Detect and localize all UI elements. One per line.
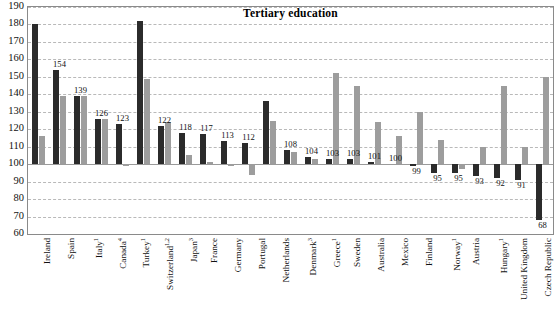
bar-value-label: 112	[237, 133, 260, 142]
bar-value-label: 154	[48, 60, 71, 69]
x-axis-labels: IrelandSpainItaly1Canada4Turkey1Switzerl…	[0, 238, 556, 326]
bar-value-label: 104	[300, 147, 323, 156]
bar-value-label: 123	[111, 114, 134, 123]
bar-value-label: 126	[90, 109, 113, 118]
bar-light	[291, 152, 297, 164]
bar-dark	[263, 101, 269, 164]
bar-value-label: 91	[510, 181, 533, 190]
x-axis-label: Portugal	[258, 238, 267, 269]
x-axis-label: Mexico	[401, 238, 410, 266]
x-axis-label: Switzerland1,2	[162, 238, 175, 290]
bar-light	[522, 147, 528, 164]
bar-light	[228, 164, 234, 166]
bars-layer	[28, 7, 553, 234]
bar-value-label: 92	[489, 179, 512, 188]
y-axis-tick: 180	[8, 18, 24, 28]
bar-value-label: 95	[426, 174, 449, 183]
x-axis-label: Greece1	[329, 238, 342, 267]
bar-value-label: 95	[447, 174, 470, 183]
bar-dark	[74, 96, 80, 164]
bar-dark	[494, 164, 500, 178]
bar-light	[207, 162, 213, 164]
bar-light	[438, 140, 444, 164]
x-axis-label: Netherlands	[282, 238, 291, 282]
x-axis-label: Japan3	[186, 238, 199, 262]
bar-value-label: 122	[153, 116, 176, 125]
bar-value-label: 68	[531, 221, 554, 230]
bar-dark	[179, 133, 185, 164]
y-axis-tick: 160	[8, 53, 24, 63]
x-axis-label: Denmark3	[305, 238, 318, 275]
bar-light	[60, 96, 66, 164]
y-axis-tick: 60	[14, 228, 25, 238]
bar-dark	[32, 24, 38, 164]
bar-dark	[473, 164, 479, 176]
bar-light	[501, 86, 507, 165]
x-axis-label: Hungary1	[496, 238, 509, 273]
bar-value-label: 108	[279, 140, 302, 149]
x-axis-label: Turkey1	[138, 238, 151, 267]
bar-dark	[431, 164, 437, 173]
y-axis-tick: 100	[8, 158, 24, 168]
y-axis-tick: 120	[8, 123, 24, 133]
bar-light	[459, 164, 465, 169]
chart-title: Tertiary education	[27, 7, 554, 19]
bar-dark	[116, 124, 122, 164]
bar-light	[312, 159, 318, 164]
bar-value-label: 103	[342, 149, 365, 158]
bar-dark	[221, 141, 227, 164]
bar-light	[165, 122, 171, 164]
bar-value-label: 103	[321, 149, 344, 158]
x-axis-label: United Kingdom	[520, 238, 529, 300]
bar-dark	[53, 70, 59, 164]
bar-dark	[368, 162, 374, 164]
bar-light	[186, 155, 192, 164]
bar-light	[81, 96, 87, 164]
bar-value-label: 99	[405, 167, 428, 176]
y-axis-tick: 90	[14, 176, 25, 186]
bar-light	[270, 121, 276, 165]
plot-area: 1541391261231221181171131121081041031031…	[27, 6, 554, 235]
y-axis-tick: 80	[14, 193, 25, 203]
bar-light	[123, 164, 129, 166]
bar-dark	[326, 159, 332, 164]
bar-dark	[200, 134, 206, 164]
bar-dark	[284, 150, 290, 164]
x-axis-label: Norway1	[449, 238, 462, 271]
x-axis-label: Ireland	[43, 238, 52, 264]
bar-light	[417, 112, 423, 164]
y-axis: 19018017016015014013012011010090807060	[0, 0, 27, 241]
bar-dark	[158, 126, 164, 164]
x-axis-label: Germany	[234, 238, 243, 272]
y-axis-tick: 170	[8, 36, 24, 46]
bar-dark	[137, 21, 143, 164]
bar-dark	[515, 164, 521, 180]
x-axis-label: Finland	[425, 238, 434, 266]
bar-value-label: 101	[363, 152, 386, 161]
bar-dark	[347, 159, 353, 164]
bar-light	[39, 136, 45, 164]
bar-light	[249, 164, 255, 174]
x-axis-label: Spain	[67, 238, 76, 259]
bar-value-label: 100	[384, 154, 407, 163]
bar-value-label: 139	[69, 86, 92, 95]
y-axis-tick: 130	[8, 106, 24, 116]
y-axis-tick: 140	[8, 88, 24, 98]
bar-light	[480, 147, 486, 164]
x-axis-label: Italy1	[91, 238, 104, 258]
bar-value-label: 113	[216, 131, 239, 140]
y-axis-tick: 110	[9, 141, 24, 151]
x-axis-label: Sweden	[353, 238, 362, 267]
bar-value-label: 93	[468, 177, 491, 186]
x-axis-label: Czech Republic	[544, 238, 553, 296]
bar-light	[144, 79, 150, 165]
chart-container: 19018017016015014013012011010090807060 1…	[0, 0, 556, 326]
bar-value-label: 118	[174, 123, 197, 132]
bar-dark	[452, 164, 458, 173]
bar-dark	[536, 164, 542, 220]
bar-value-label: 117	[195, 124, 218, 133]
bar-dark	[242, 143, 248, 164]
x-axis-label: Austria	[472, 238, 481, 265]
x-axis-label: Australia	[377, 238, 386, 272]
bar-dark	[305, 157, 311, 164]
